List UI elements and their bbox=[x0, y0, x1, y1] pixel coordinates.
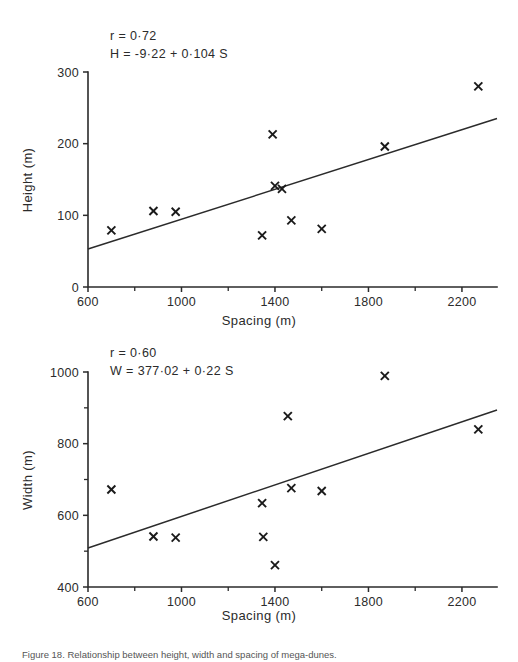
data-point bbox=[287, 216, 295, 224]
regression-line-width bbox=[88, 410, 497, 548]
figure-caption: Figure 18. Relationship between height, … bbox=[22, 648, 492, 661]
axes-width bbox=[83, 372, 497, 592]
chart-height-svg: r = 0·72 H = -9·22 + 0·104 S 01002003006… bbox=[0, 0, 518, 335]
chart-height-vs-spacing: r = 0·72 H = -9·22 + 0·104 S 01002003006… bbox=[0, 0, 518, 335]
x-tick-label: 2200 bbox=[447, 595, 476, 609]
x-axis-title: Spacing (m) bbox=[222, 313, 296, 328]
annotation-correlation: r = 0·60 bbox=[110, 346, 157, 360]
data-point bbox=[107, 486, 115, 494]
y-axis-title: Width (m) bbox=[20, 450, 35, 510]
axes-height bbox=[83, 72, 497, 292]
data-point bbox=[149, 532, 157, 540]
data-point bbox=[259, 533, 267, 541]
data-point bbox=[269, 130, 277, 138]
x-tick-label: 1000 bbox=[167, 595, 196, 609]
data-point bbox=[318, 225, 326, 233]
data-points-height bbox=[107, 82, 482, 239]
data-point bbox=[107, 226, 115, 234]
annotation-equation: W = 377·02 + 0·22 S bbox=[110, 364, 234, 378]
y-axis-title: Height (m) bbox=[20, 148, 35, 213]
regression-line-height bbox=[88, 119, 497, 249]
data-point bbox=[258, 231, 266, 239]
x-tick-label: 1800 bbox=[354, 295, 383, 309]
data-points-width bbox=[107, 372, 482, 569]
data-point bbox=[149, 207, 157, 215]
y-tick-label: 100 bbox=[57, 209, 79, 223]
data-point bbox=[172, 534, 180, 542]
data-point bbox=[318, 487, 326, 495]
y-tick-label: 400 bbox=[57, 581, 79, 595]
data-point bbox=[381, 143, 389, 151]
data-point bbox=[287, 484, 295, 492]
annotation-correlation: r = 0·72 bbox=[110, 29, 157, 43]
data-point bbox=[284, 412, 292, 420]
x-tick-label: 1400 bbox=[260, 595, 289, 609]
y-tick-label: 200 bbox=[57, 137, 79, 151]
data-point bbox=[271, 561, 279, 569]
tick-labels-height: 01002003006001000140018002200 bbox=[57, 66, 476, 310]
y-tick-label: 800 bbox=[57, 437, 79, 451]
data-point bbox=[381, 372, 389, 380]
x-tick-label: 600 bbox=[77, 295, 99, 309]
figure-container: r = 0·72 H = -9·22 + 0·104 S 01002003006… bbox=[0, 0, 518, 662]
regression-line bbox=[88, 119, 497, 249]
x-tick-label: 1800 bbox=[354, 595, 383, 609]
y-tick-label: 600 bbox=[57, 509, 79, 523]
data-point bbox=[258, 499, 266, 507]
regression-line bbox=[88, 410, 497, 548]
axis-lines bbox=[88, 72, 497, 287]
annotation-equation: H = -9·22 + 0·104 S bbox=[110, 47, 228, 61]
data-point bbox=[172, 208, 180, 216]
x-tick-label: 1000 bbox=[167, 295, 196, 309]
x-tick-label: 2200 bbox=[447, 295, 476, 309]
y-tick-label: 1000 bbox=[50, 366, 79, 380]
x-tick-label: 600 bbox=[77, 595, 99, 609]
data-point bbox=[474, 82, 482, 90]
annotation-group-height: r = 0·72 H = -9·22 + 0·104 S bbox=[110, 29, 228, 61]
x-tick-label: 1400 bbox=[260, 295, 289, 309]
chart-width-vs-spacing: r = 0·60 W = 377·02 + 0·22 S 40060080010… bbox=[0, 330, 518, 630]
data-point bbox=[474, 425, 482, 433]
y-tick-label: 300 bbox=[57, 66, 79, 80]
annotation-group-width: r = 0·60 W = 377·02 + 0·22 S bbox=[110, 346, 234, 378]
y-tick-label: 0 bbox=[72, 281, 79, 295]
chart-width-svg: r = 0·60 W = 377·02 + 0·22 S 40060080010… bbox=[0, 330, 518, 630]
x-axis-title: Spacing (m) bbox=[222, 608, 296, 623]
